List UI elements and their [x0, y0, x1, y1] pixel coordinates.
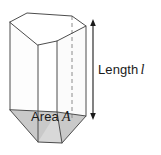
length-label-symbol: l	[138, 62, 144, 77]
area-label: AreaA	[31, 109, 71, 125]
length-label: Lengthl	[98, 62, 144, 78]
dimension-arrowhead-top	[90, 19, 96, 26]
area-label-word: Area	[31, 109, 59, 124]
area-label-symbol: A	[59, 109, 71, 124]
dimension-arrowhead-bottom	[90, 113, 96, 120]
length-dimension-arrow	[90, 19, 96, 120]
prism-figure: Lengthl AreaA	[0, 0, 161, 155]
length-label-word: Length	[98, 62, 138, 77]
